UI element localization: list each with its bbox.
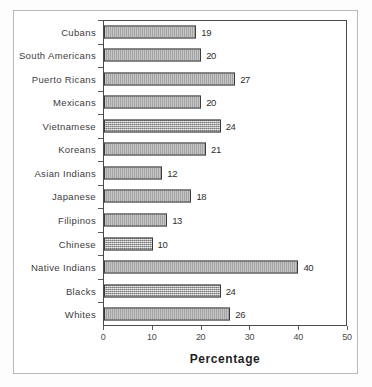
- category-label: Filipinos: [58, 215, 96, 226]
- x-axis-tick: [347, 326, 348, 330]
- bar-value-label: 24: [226, 285, 236, 296]
- bar-value-label: 20: [206, 50, 216, 61]
- bar-with-value: 20: [104, 49, 216, 62]
- x-axis-tick: [103, 326, 104, 330]
- category-axis-tick: [98, 138, 103, 139]
- category-axis-tick: [98, 279, 103, 280]
- category-label: Whites: [65, 309, 96, 320]
- category-label: Asian Indians: [34, 167, 96, 178]
- bar-row: Whites26: [0, 302, 372, 326]
- bar-with-value: 12: [104, 166, 177, 179]
- bar-value-label: 40: [303, 262, 313, 273]
- bar-row: South Americans20: [0, 44, 372, 68]
- bar: [104, 49, 201, 62]
- bar-with-value: 27: [104, 72, 250, 85]
- x-axis-tick-label: 20: [196, 332, 205, 342]
- bar: [104, 308, 230, 321]
- bar: [104, 190, 191, 203]
- x-axis-tick-label: 10: [147, 332, 156, 342]
- category-label: Native Indians: [31, 262, 96, 273]
- category-label: Puerto Ricans: [32, 73, 96, 84]
- bar-row: Mexicans20: [0, 91, 372, 115]
- x-axis-tick: [152, 326, 153, 330]
- bar-row: Cubans19: [0, 20, 372, 44]
- category-axis-tick: [98, 20, 103, 21]
- category-axis-tick: [98, 255, 103, 256]
- bar-value-label: 26: [235, 309, 245, 320]
- bar-with-value: 18: [104, 190, 206, 203]
- bar: [104, 237, 153, 250]
- bar: [104, 143, 206, 156]
- bar-value-label: 18: [196, 191, 206, 202]
- x-axis-tick: [249, 326, 250, 330]
- category-label: Cubans: [61, 26, 96, 37]
- bar-row: Vietnamese24: [0, 114, 372, 138]
- x-axis-tick-label: 0: [101, 332, 106, 342]
- bar-row: Filipinos13: [0, 208, 372, 232]
- category-label: Mexicans: [53, 97, 96, 108]
- bar-rows-container: Cubans19South Americans20Puerto Ricans27…: [0, 20, 372, 326]
- bar-row: Native Indians40: [0, 255, 372, 279]
- x-axis-tick: [298, 326, 299, 330]
- category-axis-tick: [98, 302, 103, 303]
- bar-value-label: 20: [206, 97, 216, 108]
- category-axis-tick: [98, 232, 103, 233]
- x-axis-tick-label: 30: [245, 332, 254, 342]
- x-axis-tick-label: 50: [342, 332, 351, 342]
- x-axis-title: Percentage: [103, 352, 347, 366]
- category-axis-tick: [98, 114, 103, 115]
- category-label: Blacks: [66, 285, 96, 296]
- bar-with-value: 26: [104, 308, 245, 321]
- x-axis-tick-label: 40: [293, 332, 302, 342]
- bar-value-label: 12: [167, 167, 177, 178]
- bar-with-value: 24: [104, 119, 235, 132]
- bar: [104, 119, 221, 132]
- category-label: Koreans: [58, 144, 96, 155]
- bar-row: Puerto Ricans27: [0, 67, 372, 91]
- bar-with-value: 20: [104, 96, 216, 109]
- bar-row: Chinese10: [0, 232, 372, 256]
- bar: [104, 284, 221, 297]
- bar-value-label: 19: [201, 26, 211, 37]
- bar-value-label: 21: [211, 144, 221, 155]
- bar-value-label: 27: [240, 73, 250, 84]
- category-label: Vietnamese: [43, 120, 97, 131]
- bar: [104, 72, 235, 85]
- bar-value-label: 10: [158, 238, 168, 249]
- category-label: Japanese: [52, 191, 96, 202]
- bar: [104, 25, 196, 38]
- category-label: Chinese: [59, 238, 96, 249]
- category-axis-tick: [98, 208, 103, 209]
- bar-with-value: 24: [104, 284, 235, 297]
- bar-with-value: 19: [104, 25, 211, 38]
- bar-row: Japanese18: [0, 185, 372, 209]
- bar-chart-figure: Cubans19South Americans20Puerto Ricans27…: [0, 0, 372, 387]
- bar-row: Asian Indians12: [0, 161, 372, 185]
- category-axis-tick: [98, 67, 103, 68]
- bar-with-value: 10: [104, 237, 167, 250]
- bar-with-value: 40: [104, 261, 313, 274]
- category-axis-tick: [98, 161, 103, 162]
- bar-with-value: 13: [104, 214, 182, 227]
- bar: [104, 261, 298, 274]
- bar-value-label: 24: [226, 120, 236, 131]
- bar-with-value: 21: [104, 143, 221, 156]
- bar-row: Koreans21: [0, 138, 372, 162]
- bar-value-label: 13: [172, 215, 182, 226]
- category-axis-tick: [98, 91, 103, 92]
- category-axis-tick: [98, 44, 103, 45]
- category-label: South Americans: [19, 50, 96, 61]
- bar: [104, 214, 167, 227]
- x-axis-tick: [201, 326, 202, 330]
- bar-row: Blacks24: [0, 279, 372, 303]
- bar: [104, 166, 162, 179]
- bar: [104, 96, 201, 109]
- category-axis-tick: [98, 185, 103, 186]
